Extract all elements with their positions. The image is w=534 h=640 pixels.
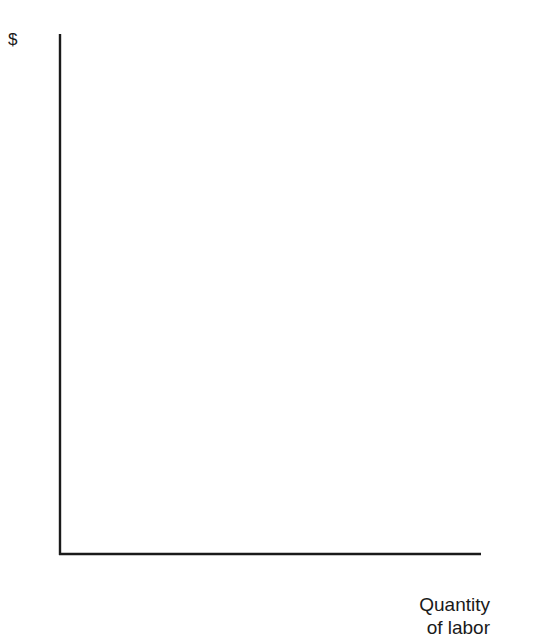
x-axis-label-line-1: Quantity: [386, 593, 490, 616]
x-axis-label: Quantity of labor: [386, 593, 490, 639]
chart-area: $ Quantity of labor: [0, 0, 534, 640]
x-axis-label-line-2: of labor: [386, 616, 490, 639]
axes-frame: [0, 0, 534, 640]
y-axis-label: $: [8, 30, 17, 50]
